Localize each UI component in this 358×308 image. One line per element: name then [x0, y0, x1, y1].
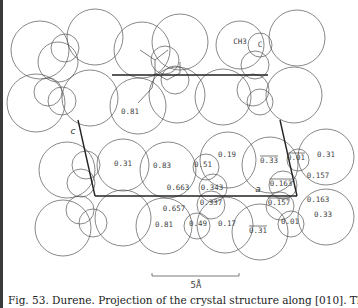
atom-height-label: 0.31	[317, 150, 335, 159]
scale-bar: 5Å	[152, 273, 239, 290]
atom-height-label: 0.337	[200, 198, 223, 207]
crystal-structure-drawing: c a CH3 C 0.810.310.830.510.190.6630.343…	[0, 0, 358, 290]
atom-height-label: 0.19	[218, 150, 236, 159]
durene-crystal-projection-figure: c a CH3 C 0.810.310.830.510.190.6630.343…	[0, 0, 358, 308]
atom-height-label: 0.663	[167, 183, 190, 192]
atom-height-label: 0.33	[260, 156, 278, 165]
atom-height-label: 0.31	[249, 226, 267, 235]
atom-height-label: 0.83	[153, 161, 171, 170]
unit-cell-outline	[78, 75, 297, 196]
carbon-atom-label: C	[258, 40, 263, 49]
methyl-group-label: CH3	[233, 37, 247, 46]
atom-height-label: 0.81	[121, 107, 139, 116]
atom-height-label: 0.01	[281, 217, 299, 226]
atom-height-label: 0.51	[194, 160, 212, 169]
atom-height-label: 0.163	[270, 179, 293, 188]
atom-height-label: 0.343	[201, 183, 224, 192]
atom-height-label: 0.31	[114, 159, 132, 168]
atom-height-label: 0.81	[155, 220, 173, 229]
atom-height-label: 0.157	[268, 198, 291, 207]
atom-height-label: 0.157	[307, 171, 330, 180]
atom-height-label: 0.49	[189, 219, 207, 228]
figure-caption: Fig. 53. Durene. Projection of the cryst…	[8, 294, 358, 306]
atom-height-label: 0.657	[163, 204, 186, 213]
axis-label-a: a	[255, 184, 261, 194]
atom-spheres-top	[7, 9, 325, 134]
scale-bar-label: 5Å	[191, 279, 202, 290]
atom-height-label: 0.163	[307, 195, 330, 204]
atom-height-label: 0.17	[218, 219, 236, 228]
atom-height-label: 0.33	[314, 210, 332, 219]
axis-label-c: c	[71, 126, 76, 136]
atom-height-label: 0.01	[287, 153, 305, 162]
bond-skeleton	[138, 50, 180, 103]
